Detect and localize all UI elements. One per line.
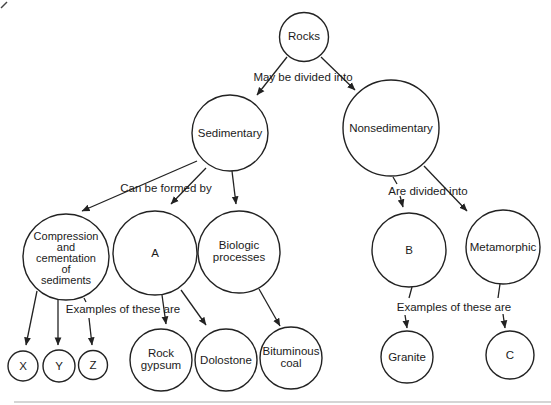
node-bituminous-coal: Bituminous coal	[260, 327, 322, 389]
edge-a-dolostone	[181, 290, 206, 325]
edge-b-granite	[405, 315, 407, 328]
edge-metamorphic-c-stub	[498, 284, 500, 298]
node-biologic-label-line1: Biologic	[219, 239, 260, 251]
edge-compression-z	[89, 318, 92, 345]
node-nonsedimentary-label: Nonsedimentary	[349, 122, 433, 134]
node-a-label: A	[151, 247, 159, 259]
node-granite: Granite	[381, 331, 433, 383]
node-dolostone: Dolostone	[195, 329, 257, 391]
node-b: B	[372, 213, 446, 287]
node-compression-cementation: Compression and cementation of sediments	[23, 214, 109, 300]
node-biologic-label-line2: processes	[213, 251, 266, 263]
node-c-label: C	[506, 349, 514, 361]
node-rocks-label: Rocks	[288, 30, 320, 42]
edge-label-may-be-divided-into: May be divided into	[253, 71, 352, 83]
edge-label-are-divided-into: Are divided into	[388, 185, 467, 197]
rocks-concept-map: Rocks Sedimentary Nonsedimentary Compres…	[0, 0, 551, 405]
node-metamorphic-label: Metamorphic	[470, 241, 537, 253]
edge-label-can-be-formed-by: Can be formed by	[120, 182, 212, 194]
node-nonsedimentary: Nonsedimentary	[343, 80, 439, 176]
node-rock-gypsum: Rock gypsum	[130, 329, 192, 391]
nodes: Rocks Sedimentary Nonsedimentary Compres…	[8, 13, 540, 392]
edge-label-examples-right: Examples of these are	[397, 301, 511, 313]
node-y: Y	[43, 350, 75, 382]
node-biologic-processes: Biologic processes	[198, 211, 280, 293]
edge-nonsedimentary-b-stub	[393, 177, 397, 184]
node-compression-label-line5: sediments	[41, 274, 92, 286]
node-rock-gypsum-label-line2: gypsum	[141, 359, 181, 371]
scan-corner-mark	[1, 2, 7, 8]
node-bituminous-coal-label-line1: Bituminous	[263, 345, 320, 357]
node-sedimentary: Sedimentary	[192, 95, 268, 171]
edge-label-examples-left: Examples of these are	[66, 303, 180, 315]
node-dolostone-label: Dolostone	[200, 354, 252, 366]
node-granite-label: Granite	[388, 351, 426, 363]
node-a: A	[113, 211, 197, 295]
node-rocks: Rocks	[280, 13, 329, 62]
node-bituminous-coal-label-line2: coal	[280, 357, 301, 369]
edge-nonsedimentary-b	[400, 196, 403, 207]
node-b-label: B	[405, 244, 413, 256]
node-rock-gypsum-label-line1: Rock	[148, 347, 174, 359]
node-x: X	[8, 351, 38, 381]
edge-metamorphic-c	[503, 314, 505, 328]
node-metamorphic: Metamorphic	[466, 210, 540, 284]
edge-b-granite-stub	[409, 287, 412, 298]
node-x-label: X	[19, 360, 27, 372]
edge-compression-x	[26, 291, 37, 345]
node-z-label: Z	[89, 359, 96, 371]
edge-compression-z-stub	[84, 298, 86, 302]
node-z: Z	[79, 351, 108, 380]
node-c: C	[486, 331, 534, 379]
node-y-label: Y	[55, 360, 63, 372]
node-sedimentary-label: Sedimentary	[198, 127, 263, 139]
edge-biologic-bituminous-coal	[259, 289, 280, 326]
scanned-diagram-page: Rocks Sedimentary Nonsedimentary Compres…	[0, 0, 551, 405]
edge-sedimentary-biologic	[232, 171, 236, 204]
